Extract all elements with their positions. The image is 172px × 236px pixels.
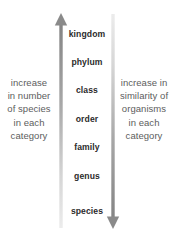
taxonomic-hierarchy-diagram: increase in number of species in each ca…: [0, 0, 172, 236]
rank-genus: genus: [62, 171, 112, 181]
rank-order: order: [62, 114, 112, 124]
rank-species: species: [62, 206, 112, 216]
right-explanation-text: increase in similarity of organisms in e…: [116, 76, 172, 142]
rank-phylum: phylum: [62, 57, 112, 67]
left-explanation-text: increase in number of species in each ca…: [0, 76, 58, 142]
taxonomic-rank-list: kingdom phylum class order family genus …: [62, 0, 112, 236]
rank-family: family: [62, 142, 112, 152]
rank-kingdom: kingdom: [62, 29, 112, 39]
rank-class: class: [62, 85, 112, 95]
